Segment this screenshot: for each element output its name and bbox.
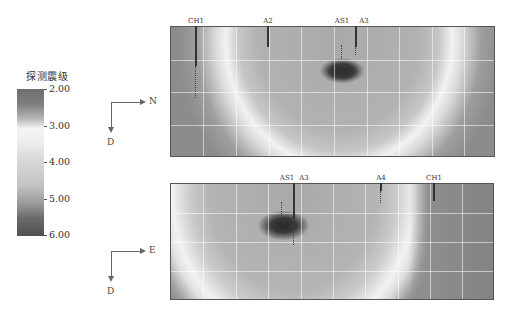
colorbar-label: 6.00	[49, 229, 70, 240]
colorbar-tick	[44, 235, 47, 236]
probe-ch1-dotted	[195, 66, 197, 98]
colorbar	[17, 89, 44, 236]
probe-as1-core	[282, 218, 284, 226]
probe-a4-dotted	[380, 191, 382, 203]
colorbar-label: 2.00	[49, 83, 70, 94]
axis-label-d: D	[107, 137, 114, 147]
axis-label-n: N	[149, 96, 157, 106]
axis-n-line	[111, 102, 141, 103]
probe-label-a3: A3	[359, 17, 369, 25]
probe-label-a4: A4	[376, 174, 386, 182]
probe-as1-dotted	[281, 202, 283, 216]
colorbar-label: 4.00	[49, 156, 70, 167]
arrow-right-icon	[140, 99, 146, 105]
probe-a2	[267, 26, 269, 47]
probe-as1-core	[341, 66, 343, 74]
colorbar-label: 5.00	[49, 193, 70, 204]
colorbar-tick	[44, 162, 47, 163]
probe-as1-dotted	[341, 45, 343, 59]
probe-label-a3: A3	[299, 174, 309, 182]
colorbar-title: 探测震级	[26, 68, 68, 83]
axis-label-e: E	[149, 245, 156, 255]
axis-d-line	[111, 102, 112, 127]
arrow-down-icon	[108, 276, 114, 282]
colorbar-tick	[44, 199, 47, 200]
axis-d-line	[111, 251, 112, 276]
bottom-panel	[170, 183, 494, 300]
axis-e-line	[111, 251, 141, 252]
top-panel	[170, 26, 495, 157]
probe-label-as1: AS1	[280, 174, 294, 182]
arrow-right-icon	[140, 248, 146, 254]
probe-ch1	[433, 183, 435, 201]
probe-a3	[355, 26, 357, 47]
probe-label-as1: AS1	[335, 17, 349, 25]
probe-label-a2: A2	[263, 17, 273, 25]
colorbar-tick	[44, 126, 47, 127]
probe-label-ch1: CH1	[188, 17, 204, 25]
probe-label-ch1: CH1	[426, 174, 442, 182]
arrow-down-icon	[108, 127, 114, 133]
colorbar-tick	[44, 89, 47, 90]
axis-label-d: D	[107, 286, 114, 296]
colorbar-label: 3.00	[49, 120, 70, 131]
probe-a3	[293, 183, 295, 219]
probe-a3-dotted	[355, 47, 357, 55]
probe-a3-dotted	[293, 219, 295, 245]
probe-a4	[380, 183, 382, 191]
probe-ch1	[195, 26, 197, 66]
